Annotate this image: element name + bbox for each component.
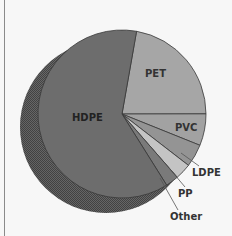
label-ldpe: LDPE [192, 167, 221, 178]
label-pet: PET [145, 68, 166, 79]
label-other: Other [170, 211, 202, 222]
pie-chart: HDPE PET PVC LDPE PP Other [0, 0, 232, 236]
pie-slices [38, 30, 206, 198]
label-pp: PP [178, 188, 193, 199]
label-pvc: PVC [175, 122, 197, 133]
label-hdpe: HDPE [72, 112, 103, 123]
